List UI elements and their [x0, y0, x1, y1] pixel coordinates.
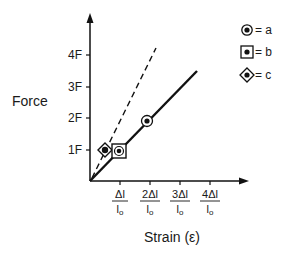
y-tick-1F: 1F [68, 143, 82, 157]
legend-c-label: = c [255, 68, 271, 82]
y-axis-arrow-icon [87, 13, 94, 23]
svg-text:2Δl: 2Δl [142, 188, 158, 200]
marker-b-square-icon [112, 144, 126, 158]
legend-diamond-icon [240, 68, 254, 82]
legend: = a = b = c [240, 23, 272, 82]
svg-text:Δl: Δl [115, 188, 125, 200]
svg-text:3Δl: 3Δl [172, 188, 188, 200]
legend-square-icon [241, 46, 253, 58]
marker-a-circle-icon [142, 116, 153, 127]
svg-text:4Δl: 4Δl [202, 188, 218, 200]
marker-c-diamond-icon [98, 143, 112, 157]
y-tick-2F: 2F [68, 111, 82, 125]
force-strain-chart: 1F 2F 3F 4F Force Δl lo 2Δl lo 3Δl lo 4Δ… [0, 0, 285, 255]
svg-text:lo: lo [207, 203, 214, 217]
legend-a-label: = a [255, 23, 272, 37]
x-tick-3: 3Δl lo [170, 188, 190, 217]
x-axis-arrow-icon [239, 178, 249, 185]
legend-b-label: = b [255, 45, 272, 59]
x-tick-4: 4Δl lo [200, 188, 220, 217]
legend-circle-icon [242, 25, 252, 35]
y-axis-label: Force [12, 93, 48, 109]
y-tick-4F: 4F [68, 48, 82, 62]
y-tick-3F: 3F [68, 80, 82, 94]
x-tick-1: Δl lo [112, 188, 128, 217]
x-tick-2: 2Δl lo [140, 188, 160, 217]
svg-text:lo: lo [117, 203, 124, 217]
svg-text:lo: lo [147, 203, 154, 217]
x-axis-label: Strain (ε) [144, 229, 200, 245]
svg-text:lo: lo [177, 203, 184, 217]
